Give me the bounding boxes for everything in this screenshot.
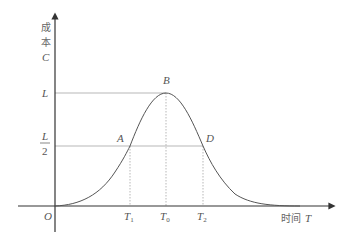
x-tick-t0: T0: [160, 210, 170, 224]
y-tick-l: L: [41, 87, 48, 99]
x-tick-t1: T1: [124, 210, 134, 224]
cost-time-diagram: 成 本 C L L 2 O T1 T0 T2 时间 T A B D: [0, 0, 346, 243]
y-tick-half-l-num: L: [41, 130, 48, 142]
origin-label: O: [44, 210, 52, 222]
y-axis-label-symbol: C: [42, 51, 50, 63]
y-axis-label-char2: 本: [41, 36, 51, 48]
x-axis-label-symbol: T: [305, 212, 312, 224]
point-b-label: B: [163, 74, 170, 86]
point-a-label: A: [116, 132, 124, 144]
x-tick-t2: T2: [197, 210, 207, 224]
bell-curve: [55, 93, 300, 206]
x-axis-label-text: 时间: [281, 212, 301, 224]
point-d-label: D: [205, 132, 214, 144]
y-tick-half-l-den: 2: [42, 145, 48, 157]
y-axis-label-char1: 成: [41, 22, 51, 33]
